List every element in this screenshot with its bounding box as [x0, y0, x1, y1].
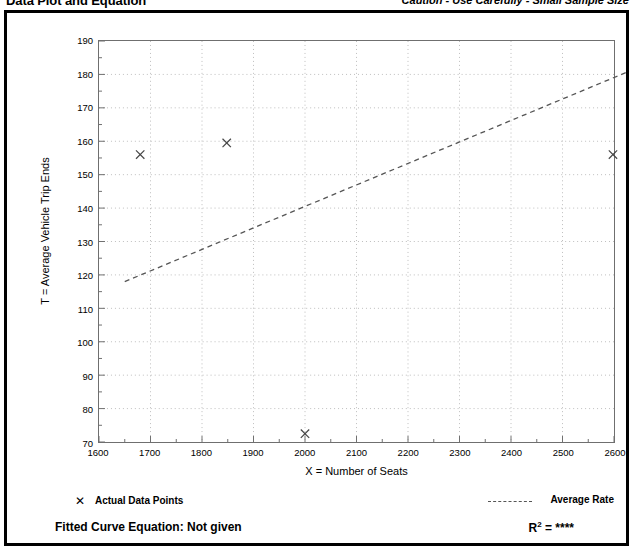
data-point-marker [301, 429, 309, 437]
data-point-marker [136, 150, 144, 158]
legend-row-equation: Fitted Curve Equation: Not given R2 = **… [7, 517, 632, 543]
legend-label-data-points: Actual Data Points [95, 495, 183, 506]
legend-row-series: ✕ Actual Data Points Average Rate [7, 491, 632, 513]
data-layer [99, 41, 614, 442]
y-tick-label: 150 [77, 169, 93, 180]
legend-block: ✕ Actual Data Points Average Rate Fitted… [7, 491, 632, 549]
y-tick-label: 90 [82, 370, 93, 381]
x-tick-label: 1900 [243, 447, 264, 458]
x-axis-tick-labels: 1600170018001900200021002200230024002500… [98, 447, 615, 463]
x-tick-label: 1800 [191, 447, 212, 458]
data-point-marker [223, 139, 231, 147]
y-axis-tick-labels: 708090100110120130140150160170180190 [57, 40, 93, 443]
data-point-marker [609, 150, 617, 158]
y-tick-label: 190 [77, 35, 93, 46]
x-tick-label: 1700 [139, 447, 160, 458]
fitted-curve-equation: Fitted Curve Equation: Not given [55, 520, 242, 534]
chart-area: 708090100110120130140150160170180190 160… [7, 13, 632, 549]
y-tick-label: 130 [77, 236, 93, 247]
y-tick-label: 170 [77, 102, 93, 113]
x-tick-label: 1600 [87, 447, 108, 458]
x-tick-label: 2000 [294, 447, 315, 458]
x-axis-title: X = Number of Seats [98, 465, 615, 477]
r-squared-prefix: R [529, 521, 538, 535]
x-tick-label: 2600 [604, 447, 625, 458]
x-tick-label: 2500 [553, 447, 574, 458]
caution-note: Caution - Use Carefully - Small Sample S… [402, 0, 629, 6]
r-squared-value: R2 = **** [529, 520, 574, 535]
r-squared-number: = **** [542, 521, 574, 535]
y-tick-label: 120 [77, 270, 93, 281]
page-title: Data Plot and Equation [6, 0, 146, 8]
y-tick-label: 80 [82, 404, 93, 415]
dashed-line-icon [488, 501, 532, 502]
y-tick-label: 160 [77, 135, 93, 146]
y-axis-title: T = Average Vehicle Trip Ends [39, 41, 51, 421]
y-tick-label: 140 [77, 202, 93, 213]
chart-panel: 708090100110120130140150160170180190 160… [4, 10, 629, 546]
x-tick-label: 2400 [501, 447, 522, 458]
x-tick-label: 2300 [449, 447, 470, 458]
x-marker-icon: ✕ [75, 495, 85, 507]
legend-label-average-rate: Average Rate [550, 494, 614, 505]
x-tick-label: 2200 [398, 447, 419, 458]
y-tick-label: 180 [77, 68, 93, 79]
x-tick-label: 2100 [346, 447, 367, 458]
plot-frame [98, 40, 615, 443]
y-tick-label: 110 [78, 303, 93, 314]
y-tick-label: 100 [77, 337, 93, 348]
